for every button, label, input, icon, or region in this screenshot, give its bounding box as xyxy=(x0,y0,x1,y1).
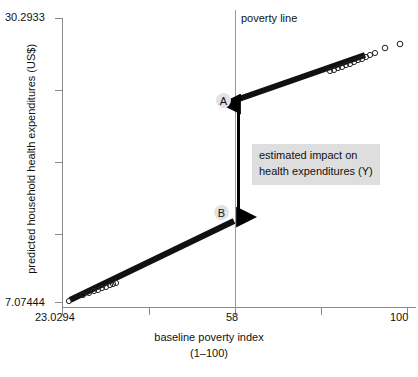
impact-annotation-line2: health expenditures (Y) xyxy=(259,164,373,180)
y-axis-tick-label-bottom: 7.07444 xyxy=(5,296,45,310)
x-axis-tick-label-max: 100 xyxy=(390,311,408,325)
x-axis-title-line1: baseline poverty index xyxy=(154,331,263,343)
x-axis-title-line2: (1–100) xyxy=(0,347,418,361)
point-b-badge: B xyxy=(214,205,229,220)
poverty-line-label: poverty line xyxy=(241,12,297,26)
y-axis-title: predicted household health expenditures … xyxy=(25,43,39,275)
x-axis-tick-label-mid: 58 xyxy=(226,311,238,325)
fit-line-above xyxy=(236,55,365,100)
chart-figure: 30.2933 7.07444 predicted household heal… xyxy=(0,0,418,377)
impact-annotation-line1: estimated impact on xyxy=(259,149,357,161)
impact-annotation-box: estimated impact on health expenditures … xyxy=(252,144,380,185)
x-axis-title: baseline poverty index (1–100) xyxy=(0,331,418,361)
y-axis-tick-label-top: 30.2933 xyxy=(5,11,45,25)
point-a-badge: A xyxy=(216,93,231,108)
x-axis-tick-label-min: 23.0294 xyxy=(35,311,75,325)
